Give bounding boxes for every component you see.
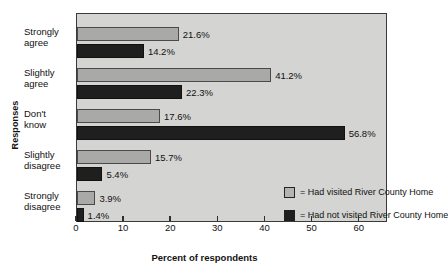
legend-label-visited: = Had visited River County Home — [300, 187, 433, 197]
legend-swatch-light-icon — [284, 187, 295, 198]
plot-area: 21.6%14.2%41.2%22.3%17.6%56.8%15.7%5.4%3… — [76, 13, 387, 222]
x-tick-label-50: 50 — [306, 222, 317, 233]
bar-value-strongly-agree-visited: 21.6% — [183, 30, 210, 40]
x-tick-30 — [217, 216, 219, 221]
bar-value-don-t-know-not-visited: 56.8% — [349, 129, 376, 139]
x-tick-40 — [264, 216, 266, 221]
bar-value-strongly-agree-not-visited: 14.2% — [148, 47, 175, 57]
x-tick-label-60: 60 — [353, 222, 364, 233]
category-label-strongly-agree: Stronglyagree — [24, 27, 72, 48]
bar-value-don-t-know-visited: 17.6% — [164, 112, 191, 122]
x-tick-label-30: 30 — [212, 222, 223, 233]
category-label-column: Stronglyagree Slightlyagree Don'tknow Sl… — [26, 13, 76, 222]
bar-strongly-disagree-visited — [77, 191, 95, 205]
bar-value-slightly-agree-not-visited: 22.3% — [186, 88, 213, 98]
legend-item-not-visited: = Had not visited River County Home — [284, 209, 448, 221]
x-tick-60 — [358, 216, 360, 221]
bar-strongly-disagree-not-visited — [77, 208, 84, 222]
bar-value-strongly-disagree-not-visited: 1.4% — [88, 211, 110, 221]
legend-label-not-visited: = Had not visited River County Home — [300, 210, 448, 220]
x-tick-0 — [75, 216, 77, 221]
bar-value-slightly-disagree-visited: 15.7% — [155, 153, 182, 163]
x-tick-label-40: 40 — [259, 222, 270, 233]
legend-swatch-dark-icon — [284, 210, 295, 221]
legend-item-visited: = Had visited River County Home — [284, 186, 448, 198]
y-axis-title: Responses — [10, 90, 20, 160]
x-tick-label-0: 0 — [73, 222, 78, 233]
category-label-slightly-agree: Slightlyagree — [24, 68, 72, 89]
bar-slightly-disagree-visited — [77, 150, 151, 164]
bar-value-strongly-disagree-visited: 3.9% — [99, 194, 121, 204]
category-label-slightly-disagree: Slightlydisagree — [24, 150, 72, 171]
x-tick-label-10: 10 — [118, 222, 129, 233]
bar-slightly-agree-visited — [77, 68, 271, 82]
bar-slightly-agree-not-visited — [77, 85, 182, 99]
bar-value-slightly-disagree-not-visited: 5.4% — [106, 170, 128, 180]
bar-don-t-know-visited — [77, 109, 160, 123]
category-label-strongly-disagree: Stronglydisagree — [24, 191, 72, 212]
bar-strongly-agree-visited — [77, 27, 179, 41]
x-axis-title: Percent of respondents — [0, 252, 409, 263]
bar-slightly-disagree-not-visited — [77, 167, 102, 181]
bar-value-slightly-agree-visited: 41.2% — [275, 71, 302, 81]
x-tick-label-20: 20 — [165, 222, 176, 233]
bar-strongly-agree-not-visited — [77, 44, 144, 58]
x-tick-50 — [311, 216, 313, 221]
category-label-dont-know: Don'tknow — [24, 109, 72, 130]
bar-don-t-know-not-visited — [77, 126, 345, 140]
x-tick-20 — [169, 216, 171, 221]
x-tick-10 — [122, 216, 124, 221]
